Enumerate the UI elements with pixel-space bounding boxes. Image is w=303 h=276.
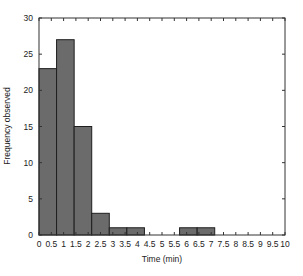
y-tick-label: 30 — [24, 13, 34, 23]
x-tick-label: 1.5 — [70, 239, 82, 249]
histogram-bars — [39, 40, 215, 235]
x-tick-label: 0.5 — [45, 239, 57, 249]
x-tick-label: 0 — [37, 239, 42, 249]
histogram-bar — [39, 69, 57, 235]
x-tick-label: 9.5 — [267, 239, 279, 249]
histogram-bar — [180, 228, 198, 235]
histogram-bar — [92, 213, 110, 235]
y-tick-label: 15 — [24, 122, 34, 132]
x-tick-label: 3.5 — [119, 239, 131, 249]
x-tick-label: 2.5 — [95, 239, 107, 249]
x-tick-label: 7 — [209, 239, 214, 249]
x-tick-label: 6.5 — [193, 239, 205, 249]
x-tick-label: 3 — [110, 239, 115, 249]
histogram-bar — [109, 228, 127, 235]
histogram-bar — [74, 127, 92, 236]
y-tick-label: 5 — [28, 194, 33, 204]
x-tick-label: 6 — [184, 239, 189, 249]
x-tick-label: 7.5 — [218, 239, 230, 249]
histogram-chart: 00.511.522.533.544.555.566.577.588.599.5… — [0, 0, 303, 276]
histogram-bar — [57, 40, 75, 235]
x-tick-label: 2 — [86, 239, 91, 249]
y-tick-label: 25 — [24, 49, 34, 59]
y-tick-label: 10 — [24, 158, 34, 168]
x-tick-label: 4.5 — [144, 239, 156, 249]
histogram-bar — [127, 228, 145, 235]
y-axis-label: Frequency observed — [2, 87, 12, 165]
x-tick-label: 10 — [280, 239, 290, 249]
x-tick-label: 5.5 — [168, 239, 180, 249]
x-tick-label: 8 — [233, 239, 238, 249]
y-tick-label: 0 — [28, 230, 33, 240]
x-tick-label: 5 — [160, 239, 165, 249]
x-tick-label: 4 — [135, 239, 140, 249]
x-tick-label: 1 — [61, 239, 66, 249]
histogram-bar — [197, 228, 215, 235]
x-tick-label: 8.5 — [242, 239, 254, 249]
x-tick-label: 9 — [258, 239, 263, 249]
x-axis-label: Time (min) — [142, 254, 182, 264]
y-tick-label: 20 — [24, 85, 34, 95]
